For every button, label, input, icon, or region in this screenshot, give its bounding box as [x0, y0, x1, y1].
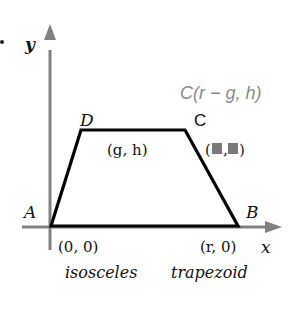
y-axis-arrow-icon: [44, 24, 56, 40]
caption-word-1: isosceles: [65, 263, 137, 282]
vertex-c-coord: ( , ): [205, 141, 245, 159]
x-axis-label: x: [261, 237, 271, 257]
vertex-a-coord: (0, 0): [58, 238, 98, 256]
placeholder-block: [228, 143, 238, 154]
svg-text:(: (: [205, 141, 211, 159]
x-axis-arrow-icon: [265, 221, 282, 233]
vertex-d-coord: (g, h): [107, 141, 148, 159]
vertex-b-coord: (r, 0): [200, 238, 236, 256]
svg-text:,: ,: [223, 141, 228, 159]
vertex-c-label: C: [194, 111, 206, 130]
caption-word-2: trapezoid: [171, 263, 248, 282]
trapezoid-diagram: y x A B C D (0, 0) (r, 0) (g, h) ( , ) C…: [0, 0, 293, 314]
vertex-a-label: A: [22, 202, 36, 222]
vertex-b-label: B: [245, 202, 259, 222]
bullet-dot: [0, 40, 4, 44]
y-axis-label: y: [24, 34, 36, 54]
c-coordinate-annotation: C(r − g, h): [180, 83, 262, 103]
vertex-d-label: D: [79, 110, 94, 130]
svg-text:): ): [239, 141, 245, 159]
placeholder-block: [212, 143, 222, 154]
